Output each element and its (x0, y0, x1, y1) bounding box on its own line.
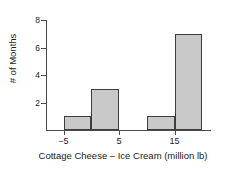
y-tick-label: 2 (20, 99, 40, 108)
histogram-figure: 2468 −5515 # of Months Cottage Cheese – … (0, 0, 246, 171)
y-axis-line (46, 20, 47, 131)
x-tick-label: −5 (49, 136, 79, 147)
y-tick-mark (41, 103, 46, 104)
y-tick-label: 4 (20, 71, 40, 80)
y-axis-label: # of Months (7, 19, 18, 99)
y-tick-mark (41, 20, 46, 21)
x-tick-mark (119, 130, 120, 135)
y-tick-mark (41, 75, 46, 76)
x-tick-label: 5 (104, 136, 134, 147)
x-axis-line (46, 130, 211, 131)
histogram-bar (64, 116, 92, 130)
y-tick-label: 8 (20, 16, 40, 25)
x-axis-label: Cottage Cheese – Ice Cream (million lb) (0, 150, 246, 161)
x-tick-mark (175, 130, 176, 135)
y-tick-label: 6 (20, 44, 40, 53)
x-tick-label: 15 (160, 136, 190, 147)
y-tick-mark (41, 48, 46, 49)
x-tick-mark (64, 130, 65, 135)
histogram-bar (175, 34, 203, 130)
histogram-bar (91, 89, 119, 130)
plot-area: 2468 −5515 # of Months Cottage Cheese – … (0, 0, 246, 171)
histogram-bar (147, 116, 175, 130)
